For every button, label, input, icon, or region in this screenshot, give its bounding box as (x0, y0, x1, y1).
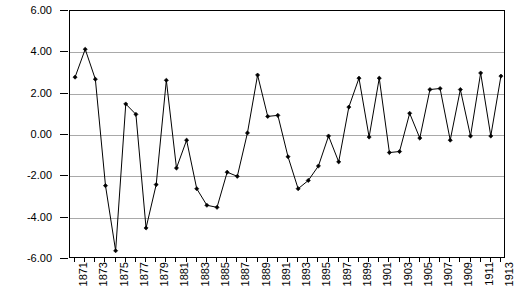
y-axis-tick-label: 6.00 (0, 5, 52, 16)
data-point-marker (154, 183, 158, 187)
x-axis-tick-label: 1883 (200, 262, 211, 286)
data-point-marker (377, 76, 381, 80)
data-point-marker (458, 87, 462, 91)
y-axis-tick-mark (60, 51, 68, 52)
data-point-marker (185, 138, 189, 142)
data-point-marker (347, 105, 351, 109)
data-point-marker (83, 47, 87, 51)
data-point-marker (397, 149, 401, 153)
x-axis-tick-label: 1909 (463, 262, 474, 286)
x-axis-tick-label: 1873 (98, 262, 109, 286)
data-point-marker (255, 73, 259, 77)
y-axis-tick-mark (60, 134, 68, 135)
data-point-marker (489, 134, 493, 138)
data-point-marker (266, 114, 270, 118)
data-point-marker (103, 184, 107, 188)
y-axis-tick-mark (60, 217, 68, 218)
data-point-marker (144, 226, 148, 230)
data-point-marker (73, 75, 77, 79)
data-point-marker (235, 174, 239, 178)
data-point-marker (164, 78, 168, 82)
data-point-marker (408, 111, 412, 115)
x-axis-tick-label: 1901 (382, 262, 393, 286)
data-point-marker (468, 134, 472, 138)
x-axis-tick-label: 1897 (342, 262, 353, 286)
x-axis-tick-label: 1887 (240, 262, 251, 286)
y-axis-tick-mark (60, 175, 68, 176)
x-axis-tick-label: 1895 (321, 262, 332, 286)
data-point-marker (479, 71, 483, 75)
x-axis-tick-label: 1879 (159, 262, 170, 286)
y-axis: 6.004.002.000.00-2.00-4.00-6.00 (0, 0, 69, 301)
chart-container: 6.004.002.000.00-2.00-4.00-6.00 18711873… (0, 0, 520, 301)
x-axis-tick-label: 1911 (484, 262, 495, 286)
data-point-marker (114, 249, 118, 253)
x-axis-tick-label: 1885 (220, 262, 231, 286)
data-point-marker (225, 170, 229, 174)
x-axis-tick-label: 1875 (119, 262, 130, 286)
y-axis-tick-label: 0.00 (0, 129, 52, 140)
data-point-marker (357, 76, 361, 80)
x-axis-tick-label: 1903 (403, 262, 414, 286)
y-axis-tick-label: 2.00 (0, 88, 52, 99)
data-point-marker (499, 74, 503, 78)
y-axis-tick-label: -2.00 (0, 170, 52, 181)
data-point-marker (337, 160, 341, 164)
data-point-marker (93, 77, 97, 81)
data-point-marker (438, 86, 442, 90)
y-axis-tick-mark (60, 10, 68, 11)
y-axis-tick-mark (60, 93, 68, 94)
data-point-marker (418, 136, 422, 140)
x-axis-tick-label: 1881 (179, 262, 190, 286)
data-point-marker (448, 138, 452, 142)
x-axis-tick-label: 1877 (139, 262, 150, 286)
data-point-marker (215, 205, 219, 209)
x-axis: 1871187318751877187918811883188518871889… (0, 260, 520, 301)
x-axis-tick-label: 1893 (301, 262, 312, 286)
data-point-marker (326, 134, 330, 138)
x-axis-tick-label: 1871 (78, 262, 89, 286)
data-point-marker (174, 166, 178, 170)
plot-area (69, 10, 505, 258)
series-markers (73, 47, 503, 253)
data-point-marker (286, 155, 290, 159)
y-axis-tick-label: 4.00 (0, 46, 52, 57)
x-axis-tick-label: 1905 (423, 262, 434, 286)
x-axis-tick-label: 1913 (504, 262, 515, 286)
x-axis-tick-label: 1889 (261, 262, 272, 286)
y-axis-tick-label: -4.00 (0, 212, 52, 223)
series-polyline (75, 49, 501, 251)
data-point-marker (428, 87, 432, 91)
data-series-line (70, 11, 506, 259)
data-point-marker (367, 135, 371, 139)
data-point-marker (276, 113, 280, 117)
y-axis-tick-mark (60, 258, 68, 259)
data-point-marker (245, 131, 249, 135)
x-axis-tick-label: 1899 (362, 262, 373, 286)
data-point-marker (387, 150, 391, 154)
x-axis-tick-label: 1907 (443, 262, 454, 286)
x-axis-tick-label: 1891 (281, 262, 292, 286)
